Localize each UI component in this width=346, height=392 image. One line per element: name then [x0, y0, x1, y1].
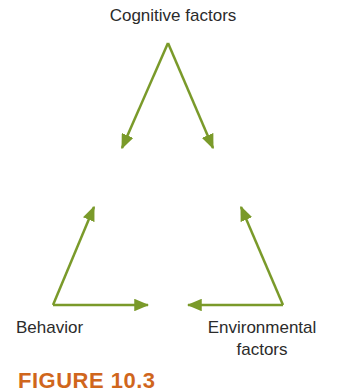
arrow-cognitive-to-environment	[168, 43, 213, 148]
node-behavior: Behavior	[16, 317, 83, 339]
arrow-cognitive-to-behavior	[122, 43, 168, 148]
arrow-behavior-to-cognitive	[53, 207, 94, 305]
node-environmental-factors: Environmental factors	[192, 317, 332, 361]
node-cognitive-factors: Cognitive factors	[0, 5, 346, 27]
node-environmental-line2: factors	[192, 339, 332, 361]
figure-caption: FIGURE 10.3	[18, 368, 156, 392]
node-environmental-line1: Environmental	[192, 317, 332, 339]
arrow-environment-to-cognitive	[241, 207, 283, 305]
